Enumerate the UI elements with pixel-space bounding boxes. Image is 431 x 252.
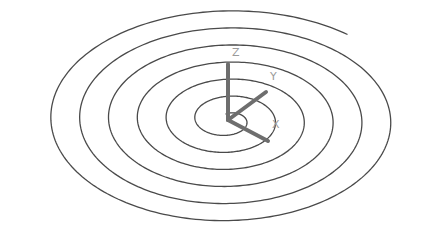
- z-axis-label: Z: [232, 46, 240, 59]
- drawing-viewport[interactable]: Z Y X: [0, 0, 431, 252]
- x-axis-icon: [228, 120, 268, 141]
- spiral-drawing[interactable]: Z Y X: [0, 0, 431, 252]
- ucs-axis-icon: Z Y X: [228, 46, 280, 141]
- spiral-curve[interactable]: [51, 11, 391, 221]
- x-axis-label: X: [272, 118, 280, 131]
- y-axis-label: Y: [269, 70, 277, 83]
